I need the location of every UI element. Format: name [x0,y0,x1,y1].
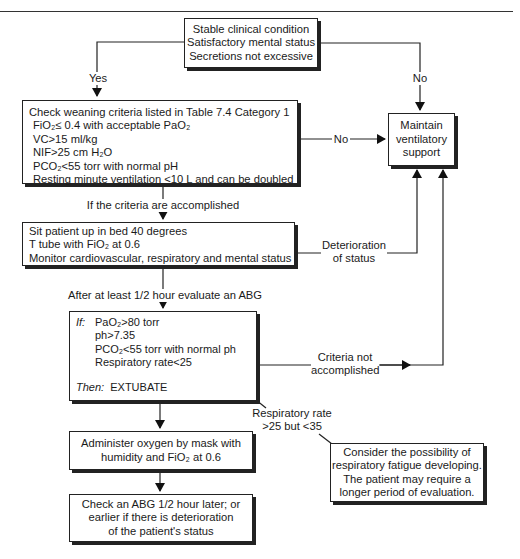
condition: PaO₂>80 torr [95,316,236,329]
edge-label-deterioration: Deterioration of status [321,239,387,266]
recheck-line: Check an ABG 1/2 hour later; or [70,498,252,511]
note-line: respiratory fatigue developing. [331,459,483,472]
start-line: Secretions not excessive [185,50,317,63]
note-line: Consider the possibility of [331,446,483,459]
criteria-item: Resting minute ventilation <10 L and can… [29,173,291,186]
deterioration-line: of status [321,252,387,265]
oxygen-line: humidity and FiO₂ at 0.6 [70,451,252,464]
condition: PCO₂<55 torr with normal ph [95,343,236,356]
oxygen-line: Administer oxygen by mask with [70,437,252,450]
edge-label-yes: Yes [87,72,109,85]
edge-label-after-half-hour: After at least 1/2 hour evaluate an ABG [66,289,264,302]
not-accomplished-line: Criteria not [311,351,379,364]
criteria-item: FiO₂≤ 0.4 with acceptable PaO₂ [29,119,291,132]
resp-rate-line: >25 but <35 [252,420,332,433]
edge-label-respiratory-rate: Respiratory rate >25 but <35 [252,407,332,434]
sit-up-line: T tube with FiO₂ at 0.6 [29,238,288,251]
maintain-ventilatory-support-box: Maintain ventilatory support [388,113,455,166]
weaning-criteria-box: Check weaning criteria listed in Table 7… [22,100,298,184]
deterioration-line: Deterioration [321,239,387,252]
if-label: If: [76,316,95,370]
then-label: Then: [76,381,104,393]
then-action: EXTUBATE [110,381,167,393]
abg-evaluation-box: If: PaO₂>80 torr ph>7.35 PCO₂<55 torr wi… [69,311,257,401]
resp-rate-line: Respiratory rate [252,407,332,420]
administer-oxygen-box: Administer oxygen by mask with humidity … [69,431,253,470]
start-line: Satisfactory mental status [185,36,317,49]
note-line: The patient may require a [331,473,483,486]
criteria-item: VC>15 ml/kg [29,133,291,146]
condition: Respiratory rate<25 [95,356,236,369]
edge-label-no-top: No [412,72,428,85]
recheck-line: of the patient's status [70,525,252,538]
edge-label-criteria-not-accomplished: Criteria not accomplished [311,351,379,378]
criteria-item: NIF>25 cm H₂O [29,146,291,159]
sit-up-line: Sit patient up in bed 40 degrees [29,225,288,238]
maintain-line: support [389,146,454,159]
edge-label-no-criteria: No [332,133,350,146]
criteria-item: PCO₂<55 torr with normal pH [29,160,291,173]
maintain-line: ventilatory [389,133,454,146]
sit-up-line: Monitor cardiovascular, respiratory and … [29,252,288,265]
maintain-line: Maintain [389,119,454,132]
recheck-abg-box: Check an ABG 1/2 hour later; or earlier … [69,494,253,542]
not-accomplished-line: accomplished [311,364,379,377]
note-line: longer period of evaluation. [331,486,483,499]
start-condition-box: Stable clinical condition Satisfactory m… [184,18,318,68]
criteria-title: Check weaning criteria listed in Table 7… [29,106,291,119]
respiratory-fatigue-note-box: Consider the possibility of respiratory … [330,443,484,502]
recheck-line: earlier if there is deterioration [70,511,252,524]
sit-up-monitor-box: Sit patient up in bed 40 degrees T tube … [22,222,295,266]
edge-label-criteria-accomplished: If the criteria are accomplished [68,199,258,212]
condition: ph>7.35 [95,329,236,342]
start-line: Stable clinical condition [185,23,317,36]
